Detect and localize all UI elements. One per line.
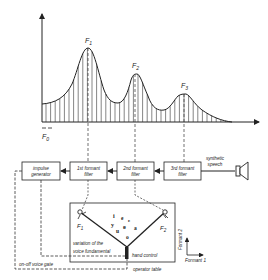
svg-text:o: o [126, 234, 129, 240]
f0-label: F0 [42, 133, 49, 142]
svg-text:generator: generator [31, 172, 51, 177]
svg-text:u: u [116, 228, 119, 234]
voice-gate-label: on-off voice gate [19, 262, 53, 267]
svg-text:e: e [121, 215, 124, 221]
spectral-envelope [42, 48, 232, 122]
formant-synthesizer-diagram: F1 F2 F3 F0 impulse generator 1st forman… [0, 0, 268, 280]
harmonic-lines [46, 48, 225, 122]
hand-control-handle [125, 247, 129, 259]
f1-pivot [78, 210, 82, 214]
svg-text:filter: filter [84, 172, 93, 177]
table-f2-label: F2 [160, 225, 167, 233]
block-third-formant-filter: 3rd formant filter [164, 162, 201, 180]
variation-label-2: voice fundamental [73, 249, 111, 254]
output-label-1: synthetic [206, 156, 225, 161]
vowel-map: i e y ɛ ø a u o [111, 213, 137, 240]
spectrum-axes [42, 14, 259, 122]
svg-text:ø: ø [123, 224, 126, 230]
svg-text:1st formant: 1st formant [77, 166, 101, 171]
control-links [82, 180, 163, 210]
formant1-axis-label: Formant 1 [185, 258, 206, 263]
peak-label-f1: F1 [85, 37, 92, 46]
f2-pivot [163, 210, 167, 214]
table-f1-label: F1 [77, 223, 84, 231]
svg-text:ɛ: ɛ [128, 218, 131, 223]
loudspeaker-icon [236, 162, 248, 180]
peak-label-f2: F2 [132, 62, 139, 71]
variation-label-1: variation of the [73, 241, 104, 246]
formant-axes-legend [187, 238, 203, 255]
svg-text:a: a [134, 225, 137, 231]
svg-text:2nd formant: 2nd formant [122, 166, 148, 171]
svg-text:filter: filter [131, 172, 140, 177]
output-label-2: speech [208, 162, 223, 167]
svg-text:i: i [113, 213, 115, 219]
block-second-formant-filter: 2nd formant filter [117, 162, 154, 180]
svg-text:impulse: impulse [33, 166, 49, 171]
operator-table-label: operator table [133, 267, 162, 272]
svg-text:y: y [111, 222, 114, 228]
voice-gate-link [15, 171, 127, 269]
block-first-formant-filter: 1st formant filter [70, 162, 107, 180]
formant2-axis-label: Formant 2 [178, 229, 183, 250]
hand-control-label: hand control [132, 253, 158, 258]
svg-text:3rd formant: 3rd formant [171, 166, 195, 171]
peak-label-f3: F3 [181, 82, 188, 91]
block-impulse-generator: impulse generator [22, 162, 60, 180]
svg-text:filter: filter [178, 172, 187, 177]
